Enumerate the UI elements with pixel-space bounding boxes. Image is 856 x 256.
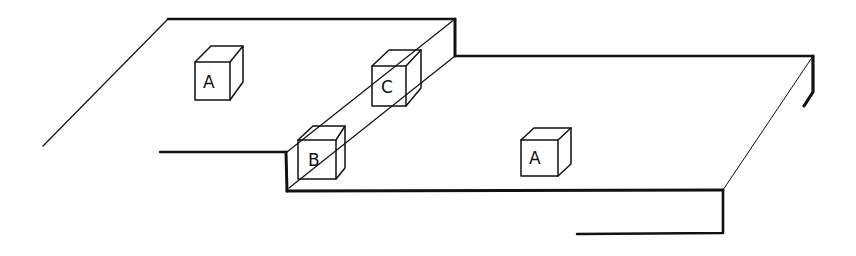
upper-plate (43, 19, 455, 152)
step-plates-diagram: A C B A (0, 0, 856, 256)
cube-a-upper-label: A (203, 72, 215, 92)
cube-c (372, 50, 421, 106)
lower-plate (287, 56, 813, 234)
cube-b (298, 126, 345, 179)
cube-b-label: B (308, 150, 320, 170)
cube-c-label: C (381, 77, 393, 97)
cube-a-lower-label: A (529, 148, 541, 168)
